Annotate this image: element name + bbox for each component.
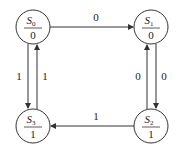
- edge-s0-s1: 0: [50, 11, 133, 27]
- edge-label: 1: [93, 110, 99, 122]
- state-output: 0: [148, 29, 154, 41]
- state-s3: S3 1: [16, 109, 50, 143]
- edge-s3-s0: 1: [37, 45, 48, 109]
- edge-s0-s3: 1: [16, 44, 28, 108]
- state-s1: S1 0: [134, 10, 168, 44]
- state-s2: S2 1: [134, 109, 168, 143]
- edge-label: 1: [42, 70, 48, 82]
- edge-label: 0: [135, 70, 141, 82]
- state-output: 1: [30, 128, 36, 140]
- edge-s2-s3: 1: [51, 110, 134, 126]
- state-diagram: 0 1 1 0 0 1 S0 0 S1 0 S2 1 S3: [0, 0, 184, 151]
- edge-s1-s2: 0: [156, 44, 167, 108]
- state-output: 1: [148, 128, 154, 140]
- edge-label: 0: [93, 11, 99, 23]
- state-s0: S0 0: [16, 10, 50, 44]
- state-output: 0: [30, 29, 36, 41]
- edge-label: 1: [16, 70, 22, 82]
- edge-label: 0: [161, 70, 167, 82]
- edge-s2-s1: 0: [135, 45, 147, 109]
